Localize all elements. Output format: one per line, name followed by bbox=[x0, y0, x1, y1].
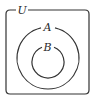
set-b-label: B bbox=[43, 41, 52, 54]
set-a-circle bbox=[17, 28, 79, 89]
set-a-label: A bbox=[43, 21, 52, 34]
venn-diagram: U A B bbox=[0, 0, 94, 100]
universe-label: U bbox=[18, 4, 28, 17]
